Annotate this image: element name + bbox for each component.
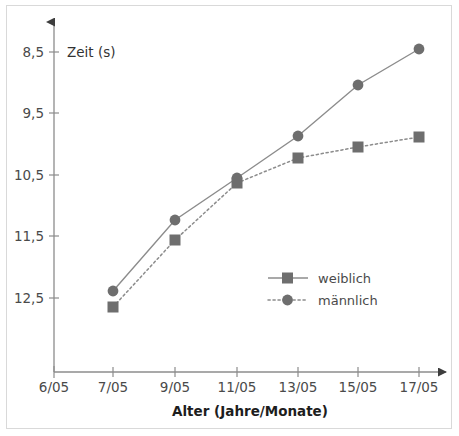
data-point-weiblich-0 xyxy=(108,302,119,313)
x-tick-label-3: 11/05 xyxy=(218,379,257,395)
y-tick-label-1: 9,5 xyxy=(23,105,44,121)
y-tick-labels: 8,5 9,5 10,5 11,5 12,5 xyxy=(14,44,44,306)
chart-legend: weiblich männlich xyxy=(268,271,378,308)
series-maennlich xyxy=(108,44,425,297)
legend-marker-circle-icon xyxy=(282,295,293,306)
x-tick-label-5: 15/05 xyxy=(339,379,378,395)
data-point-maennlich-4 xyxy=(353,80,364,91)
data-point-maennlich-5 xyxy=(414,44,425,55)
y-tick-label-2: 10,5 xyxy=(14,167,44,183)
legend-label-maennlich: männlich xyxy=(318,293,378,308)
data-point-maennlich-1 xyxy=(170,215,181,226)
y-tick-label-0: 8,5 xyxy=(23,44,44,60)
series-maennlich-line xyxy=(113,49,419,291)
data-point-maennlich-0 xyxy=(108,286,119,297)
x-axis-title: Alter (Jahre/Monate) xyxy=(172,403,328,419)
data-point-weiblich-5 xyxy=(414,132,425,143)
x-tick-labels: 6/05 7/05 9/05 11/05 13/05 15/05 17/05 xyxy=(39,379,439,395)
chart-figure: 8,5 9,5 10,5 11,5 12,5 6/05 7/05 9/05 11… xyxy=(0,0,459,436)
x-tick-label-6: 17/05 xyxy=(400,379,439,395)
data-point-weiblich-2 xyxy=(232,178,243,189)
x-tick-label-4: 13/05 xyxy=(279,379,318,395)
line-chart-canvas: 8,5 9,5 10,5 11,5 12,5 6/05 7/05 9/05 11… xyxy=(0,0,459,436)
legend-item-weiblich[interactable]: weiblich xyxy=(268,271,371,286)
data-point-weiblich-3 xyxy=(293,153,304,164)
series-weiblich-line xyxy=(113,137,419,307)
legend-marker-square-icon xyxy=(282,273,293,284)
legend-item-maennlich[interactable]: männlich xyxy=(268,293,378,308)
legend-label-weiblich: weiblich xyxy=(318,271,371,286)
y-axis-title: Zeit (s) xyxy=(67,44,115,60)
x-tick-label-1: 7/05 xyxy=(98,379,128,395)
data-point-weiblich-1 xyxy=(170,235,181,246)
y-tick-label-4: 12,5 xyxy=(14,290,44,306)
y-axis xyxy=(49,22,59,372)
x-tick-label-0: 6/05 xyxy=(39,379,69,395)
y-tick-label-3: 11,5 xyxy=(14,228,44,244)
data-point-weiblich-4 xyxy=(353,142,364,153)
x-axis xyxy=(54,366,446,378)
data-point-maennlich-3 xyxy=(293,131,304,142)
x-tick-label-2: 9/05 xyxy=(160,379,190,395)
